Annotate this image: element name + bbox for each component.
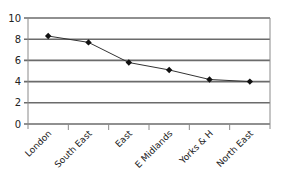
gridlines (24, 18, 270, 124)
line-chart: 0246810 LondonSouth EastEastE MidlandsYo… (0, 0, 281, 181)
series-line (48, 36, 250, 82)
data-point-marker (85, 39, 91, 45)
x-tick-label: London (23, 128, 53, 158)
data-point-marker (247, 78, 253, 84)
y-tick-label: 8 (15, 34, 21, 45)
y-tick-label: 2 (15, 97, 21, 108)
x-tick-label: Yorks & H (177, 128, 215, 166)
y-tick-label: 0 (15, 119, 21, 130)
x-axis: LondonSouth EastEastE MidlandsYorks & HN… (23, 18, 270, 170)
data-series (45, 33, 253, 85)
x-tick-label: North East (215, 128, 256, 169)
data-point-marker (45, 33, 51, 39)
x-tick-label: E Midlands (133, 128, 175, 170)
x-tick-label: South East (53, 128, 95, 170)
x-tick-label: East (113, 128, 134, 149)
y-axis-ticks: 0246810 (8, 13, 21, 130)
data-point-marker (166, 67, 172, 73)
y-tick-label: 10 (8, 13, 21, 24)
y-tick-label: 6 (15, 55, 21, 66)
y-tick-label: 4 (15, 76, 21, 87)
